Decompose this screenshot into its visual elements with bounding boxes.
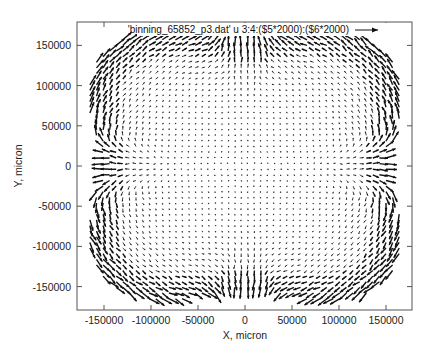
arrowhead-icon (346, 138, 347, 139)
arrowhead-icon (266, 243, 267, 244)
arrowhead-icon (273, 101, 274, 102)
arrowhead-icon (228, 197, 229, 198)
arrowhead-icon (273, 129, 274, 130)
arrowhead-icon (215, 106, 216, 107)
arrowhead-icon (134, 188, 135, 189)
arrowhead-icon (234, 220, 235, 221)
arrowhead-icon (215, 151, 216, 152)
arrowhead-icon (175, 226, 176, 227)
arrowhead-icon (240, 76, 241, 77)
arrowhead-icon (332, 198, 333, 199)
arrowhead-icon (150, 237, 151, 238)
arrowhead-icon (174, 157, 175, 158)
arrowhead-icon (325, 89, 326, 90)
arrowhead-icon (141, 144, 142, 145)
arrowhead-icon (306, 231, 307, 232)
arrowhead-icon (175, 237, 176, 238)
arrowhead-icon (339, 204, 340, 205)
arrowhead-icon (234, 214, 235, 215)
arrowhead-icon (167, 175, 168, 176)
arrowhead-icon (168, 151, 169, 152)
arrowhead-icon (216, 78, 217, 79)
arrowhead-icon (273, 220, 274, 221)
arrowhead-icon (234, 237, 235, 238)
arrowhead-icon (187, 169, 188, 170)
arrowhead-icon (134, 143, 135, 144)
arrowhead-icon (286, 231, 287, 232)
arrowhead-icon (203, 259, 204, 260)
arrowhead-icon (353, 138, 354, 139)
arrowhead-icon (294, 157, 295, 158)
arrowhead-icon (327, 151, 328, 152)
arrowhead-icon (241, 151, 242, 152)
arrowhead-icon (247, 209, 248, 210)
arrowhead-icon (293, 123, 294, 124)
arrowhead-icon (345, 221, 346, 222)
arrowhead-icon (136, 127, 137, 128)
arrowhead-icon (228, 112, 229, 113)
arrowhead-icon (326, 192, 327, 193)
arrowhead-icon (187, 175, 188, 176)
arrowhead-icon (135, 199, 136, 200)
arrowhead-icon (170, 254, 171, 255)
arrowhead-icon (235, 185, 236, 186)
arrowhead-icon (324, 260, 325, 261)
arrowhead-icon (175, 123, 176, 124)
arrowhead-icon (292, 95, 293, 96)
arrowhead-icon (160, 169, 161, 170)
arrowhead-icon (253, 94, 254, 95)
arrowhead-icon (241, 192, 242, 193)
arrowhead-icon (196, 254, 197, 255)
arrowhead-icon (162, 134, 163, 135)
arrowhead-icon (260, 220, 261, 221)
arrowhead-icon (279, 107, 280, 108)
arrowhead-icon (306, 237, 307, 238)
arrowhead-icon (144, 238, 145, 239)
arrowhead-icon (306, 100, 307, 101)
arrowhead-icon (293, 134, 294, 135)
arrowhead-icon (260, 175, 261, 176)
arrowhead-icon (313, 186, 314, 187)
arrowhead-icon (286, 197, 287, 198)
arrowhead-icon (306, 186, 307, 187)
arrowhead-icon (157, 77, 158, 78)
arrowhead-icon (312, 101, 313, 102)
arrowhead-icon (292, 242, 293, 243)
arrowhead-icon (215, 95, 216, 96)
arrowhead-icon (331, 255, 332, 256)
arrowhead-icon (319, 192, 320, 193)
arrowhead-icon (175, 151, 176, 152)
arrowhead-icon (327, 181, 328, 182)
arrowhead-icon (208, 180, 209, 181)
arrowhead-icon (177, 72, 178, 73)
arrowhead-icon (228, 249, 229, 250)
arrowhead-icon (137, 110, 138, 111)
arrowhead-icon (163, 77, 164, 78)
arrowhead-icon (195, 214, 196, 215)
arrowhead-icon (228, 140, 229, 141)
arrowhead-icon (273, 197, 274, 198)
arrowhead-icon (175, 214, 176, 215)
arrowhead-icon (266, 203, 267, 204)
arrowhead-icon (241, 163, 242, 164)
arrowhead-icon (319, 134, 320, 135)
arrowhead-icon (266, 197, 267, 198)
arrowhead-icon (266, 192, 267, 193)
arrowhead-icon (202, 89, 203, 90)
arrowhead-icon (210, 72, 211, 73)
x-tick-label: -100000 (132, 314, 171, 326)
arrowhead-icon (215, 89, 216, 90)
arrowhead-icon (167, 169, 168, 170)
arrowhead-icon (195, 220, 196, 221)
arrowhead-icon (338, 111, 339, 112)
arrowhead-icon (247, 106, 248, 107)
arrowhead-icon (170, 242, 171, 243)
arrowhead-icon (163, 100, 164, 101)
arrowhead-icon (136, 205, 137, 206)
arrowhead-icon (235, 140, 236, 141)
x-tick-label: 50000 (277, 314, 306, 326)
arrowhead-icon (234, 151, 235, 152)
arrowhead-icon (346, 144, 347, 145)
arrowhead-icon (156, 106, 157, 107)
arrowhead-icon (189, 214, 190, 215)
